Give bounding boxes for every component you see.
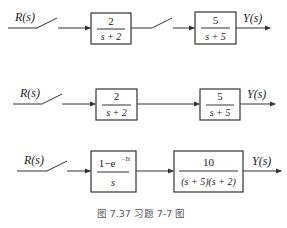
block-denominator: s + 5 bbox=[205, 31, 226, 42]
input-label-r: R(s) bbox=[23, 153, 44, 167]
block-diagram-figure: R(s) 2 s + 2 5 s + 5 Y(s) R(s) 2 s + 2 5… bbox=[0, 0, 287, 228]
diagram-svg: R(s) 2 s + 2 5 s + 5 Y(s) R(s) 2 s + 2 5… bbox=[0, 0, 287, 228]
exponent-sup: −Ts bbox=[121, 156, 131, 162]
block-numerator: 10 bbox=[203, 156, 215, 168]
block-denominator: s + 2 bbox=[106, 107, 127, 118]
output-label-y: Y(s) bbox=[243, 11, 262, 25]
sampler-switch-2 bbox=[131, 18, 172, 28]
row-2: R(s) 2 s + 2 5 s + 5 Y(s) bbox=[13, 86, 275, 120]
block-denominator: (s + 5)(s + 2) bbox=[181, 176, 236, 188]
row-3: R(s) 1−e −Ts s 10 (s + 5)(s + 2) Y(s) bbox=[17, 151, 281, 192]
figure-caption: 图 7.37 习题 7-7 图 bbox=[97, 208, 186, 219]
input-label-r: R(s) bbox=[19, 86, 40, 100]
output-label-y: Y(s) bbox=[252, 154, 271, 168]
block-denominator: s + 5 bbox=[210, 107, 231, 118]
block-numerator: 5 bbox=[217, 90, 223, 102]
block-numerator: 5 bbox=[213, 14, 219, 26]
row-1: R(s) 2 s + 2 5 s + 5 Y(s) bbox=[8, 10, 270, 44]
block-denominator: s + 2 bbox=[101, 31, 122, 42]
input-label-r: R(s) bbox=[14, 10, 35, 24]
block-denominator: s bbox=[111, 177, 115, 188]
block-numerator: 2 bbox=[108, 15, 114, 27]
block-numerator: 2 bbox=[114, 90, 120, 102]
block-numerator: 1−e bbox=[99, 157, 116, 169]
output-label-y: Y(s) bbox=[247, 87, 266, 101]
